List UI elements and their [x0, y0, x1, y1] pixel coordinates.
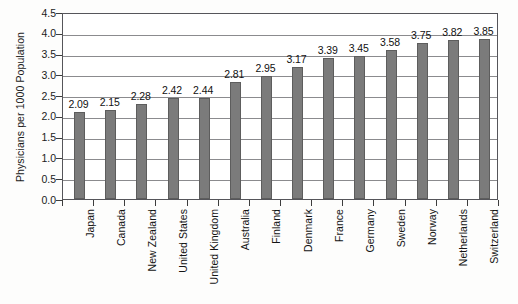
x-category-label: Denmark	[302, 209, 314, 252]
bar[interactable]	[323, 58, 334, 199]
bar[interactable]	[417, 43, 428, 199]
y-tick-label: 1.5	[30, 132, 56, 142]
x-category-label: Sweden	[395, 209, 407, 247]
bar-value-label: 3.58	[373, 37, 407, 48]
bar-value-label: 3.82	[435, 27, 469, 38]
x-tick-mark	[342, 200, 343, 206]
gridline	[63, 76, 497, 77]
bar[interactable]	[230, 82, 241, 199]
bar-value-label: 2.15	[93, 97, 127, 108]
x-category-label: Finland	[270, 209, 282, 244]
gridline	[63, 139, 497, 140]
x-category-label: Australia	[239, 209, 251, 250]
bar-value-label: 3.39	[311, 45, 345, 56]
x-tick-mark	[124, 200, 125, 206]
x-category-label: Japan	[84, 209, 96, 238]
bar[interactable]	[261, 76, 272, 199]
y-tick-label: 4.0	[30, 28, 56, 38]
x-category-label: Norway	[426, 209, 438, 245]
y-tick-label: 4.5	[30, 8, 56, 18]
x-tick-mark	[405, 200, 406, 206]
bar-value-label: 2.28	[124, 91, 158, 102]
x-tick-mark	[155, 200, 156, 206]
gridline	[63, 118, 497, 119]
x-category-label: Netherlands	[457, 209, 469, 266]
bar-value-label: 3.45	[342, 43, 376, 54]
x-category-label: Germany	[364, 209, 376, 253]
bar-value-label: 3.85	[466, 26, 500, 37]
x-category-label: Canada	[115, 209, 127, 246]
y-axis-tick-labels: 4.54.03.53.02.52.01.51.00.50.0	[30, 0, 56, 304]
bar[interactable]	[386, 50, 397, 199]
bar-value-label: 2.95	[248, 63, 282, 74]
bar[interactable]	[448, 40, 459, 199]
y-tick-mark	[56, 13, 62, 14]
x-tick-mark	[62, 200, 63, 206]
y-axis-title: Physicians per 1000 Population	[10, 2, 30, 212]
y-tick-mark	[56, 55, 62, 56]
x-tick-mark	[498, 200, 499, 206]
x-tick-mark	[311, 200, 312, 206]
y-tick-label: 3.5	[30, 49, 56, 59]
y-tick-mark	[56, 96, 62, 97]
y-tick-mark	[56, 34, 62, 35]
y-tick-mark	[56, 117, 62, 118]
y-tick-label: 0.5	[30, 174, 56, 184]
bar-value-label: 3.75	[404, 30, 438, 41]
x-category-label: France	[333, 209, 345, 242]
gridline	[63, 159, 497, 160]
x-tick-mark	[467, 200, 468, 206]
y-tick-label: 2.5	[30, 91, 56, 101]
y-tick-mark	[56, 179, 62, 180]
x-tick-mark	[187, 200, 188, 206]
bar-value-label: 2.81	[217, 69, 251, 80]
x-tick-mark	[373, 200, 374, 206]
x-tick-mark	[218, 200, 219, 206]
bar[interactable]	[354, 56, 365, 199]
y-tick-mark	[56, 138, 62, 139]
y-tick-mark	[56, 158, 62, 159]
bar[interactable]	[136, 104, 147, 199]
bar-value-label: 3.17	[280, 54, 314, 65]
bar[interactable]	[168, 98, 179, 199]
y-tick-mark	[56, 75, 62, 76]
bar-value-label: 2.09	[62, 99, 96, 110]
y-tick-label: 0.0	[30, 195, 56, 205]
bar-value-label: 2.44	[186, 85, 220, 96]
bar-chart: Physicians per 1000 Population 4.54.03.5…	[0, 0, 518, 304]
bar[interactable]	[199, 98, 210, 199]
bar-value-label: 2.42	[155, 85, 189, 96]
y-tick-label: 1.0	[30, 153, 56, 163]
x-category-label: New Zealand	[146, 209, 158, 271]
y-tick-label: 2.0	[30, 111, 56, 121]
x-category-label: United States	[177, 209, 189, 273]
bar[interactable]	[74, 112, 85, 199]
gridline	[63, 180, 497, 181]
x-category-label: United Kingdom	[208, 209, 220, 284]
y-tick-label: 3.0	[30, 70, 56, 80]
bar[interactable]	[292, 67, 303, 199]
bar[interactable]	[479, 39, 490, 199]
x-tick-mark	[280, 200, 281, 206]
bar[interactable]	[105, 110, 116, 199]
x-tick-mark	[436, 200, 437, 206]
x-category-label: Switzerland	[488, 209, 500, 264]
x-tick-mark	[93, 200, 94, 206]
x-tick-mark	[249, 200, 250, 206]
